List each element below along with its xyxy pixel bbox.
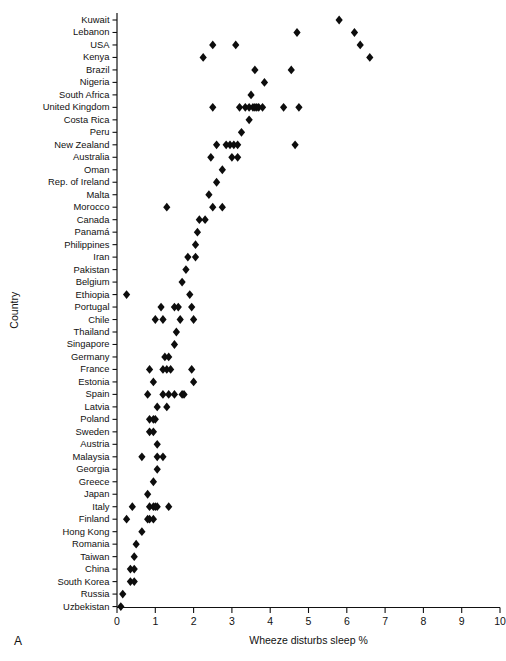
category-label-kenya: Kenya xyxy=(83,51,110,62)
data-point xyxy=(366,53,373,62)
data-point xyxy=(123,290,130,299)
data-point xyxy=(182,265,189,274)
category-label-japan: Japan xyxy=(84,488,110,499)
data-point xyxy=(246,115,253,124)
data-point xyxy=(190,315,197,324)
category-label-spain: Spain xyxy=(86,388,110,399)
x-axis-tick-label: 8 xyxy=(420,615,426,627)
panel-letter: A xyxy=(14,634,22,648)
category-label-portugal: Portugal xyxy=(75,301,110,312)
data-point xyxy=(213,140,220,149)
category-label-australia: Australia xyxy=(73,151,110,162)
category-label-romania: Romania xyxy=(72,538,110,549)
x-axis-tick-label: 4 xyxy=(267,615,273,627)
scatter-plot: KuwaitLebanonUSAKenyaBrazilNigeriaSouth … xyxy=(0,0,506,661)
data-point xyxy=(144,490,151,499)
x-axis-tick-label: 0 xyxy=(114,615,120,627)
data-point xyxy=(179,278,186,287)
category-label-thailand: Thailand xyxy=(74,326,110,337)
data-point xyxy=(190,378,197,387)
x-axis-tick-label: 2 xyxy=(191,615,197,627)
data-point xyxy=(163,203,170,212)
data-point xyxy=(138,527,145,536)
data-point xyxy=(150,378,157,387)
data-point xyxy=(159,315,166,324)
x-axis-tick-label: 1 xyxy=(152,615,158,627)
category-label-malta: Malta xyxy=(87,189,111,200)
category-label-peru: Peru xyxy=(90,126,110,137)
data-point xyxy=(219,165,226,174)
data-point xyxy=(188,365,195,374)
category-label-philippines: Philippines xyxy=(64,239,110,250)
category-label-russia: Russia xyxy=(81,588,110,599)
data-point xyxy=(131,577,138,586)
data-point xyxy=(288,66,295,75)
category-label-kuwait: Kuwait xyxy=(81,14,110,25)
category-label-italy: Italy xyxy=(92,501,110,512)
data-point xyxy=(205,190,212,199)
data-point xyxy=(232,41,239,50)
category-label-new-zealand: New Zealand xyxy=(54,139,109,150)
category-label-oman: Oman xyxy=(84,164,110,175)
data-point xyxy=(146,365,153,374)
category-label-poland: Poland xyxy=(80,413,109,424)
category-label-belgium: Belgium xyxy=(76,276,110,287)
data-point xyxy=(133,540,140,549)
data-point xyxy=(167,365,174,374)
x-axis-tick-label: 6 xyxy=(344,615,350,627)
x-axis-tick-label: 10 xyxy=(494,615,506,627)
category-label-greece: Greece xyxy=(79,476,110,487)
category-label-canada: Canada xyxy=(77,214,111,225)
x-axis-tick-label: 3 xyxy=(229,615,235,627)
data-point xyxy=(138,452,145,461)
data-point xyxy=(295,103,302,112)
data-point xyxy=(159,452,166,461)
data-point xyxy=(150,515,157,524)
category-label-germany: Germany xyxy=(71,351,110,362)
data-point xyxy=(261,78,268,87)
data-point xyxy=(171,390,178,399)
category-label-panam-: Panamá xyxy=(75,226,111,237)
data-point xyxy=(129,502,136,511)
data-point xyxy=(336,16,343,25)
data-point xyxy=(200,53,207,62)
category-label-rep-of-ireland: Rep. of Ireland xyxy=(48,176,110,187)
data-point xyxy=(209,203,216,212)
data-point xyxy=(150,477,157,486)
data-point xyxy=(291,140,298,149)
data-point xyxy=(213,178,220,187)
data-point xyxy=(131,552,138,561)
figure-panel-a: KuwaitLebanonUSAKenyaBrazilNigeriaSouth … xyxy=(0,0,506,661)
data-point xyxy=(259,103,266,112)
data-point xyxy=(188,303,195,312)
data-point xyxy=(201,215,208,224)
data-point xyxy=(123,515,130,524)
data-point xyxy=(150,427,157,436)
category-label-hong-kong: Hong Kong xyxy=(63,526,110,537)
data-point xyxy=(157,303,164,312)
category-label-malaysia: Malaysia xyxy=(73,451,111,462)
data-point xyxy=(247,90,254,99)
data-point xyxy=(165,502,172,511)
data-point xyxy=(117,602,124,611)
data-point xyxy=(163,402,170,411)
category-label-finland: Finland xyxy=(79,513,110,524)
data-point xyxy=(175,303,182,312)
y-axis-title: Country xyxy=(8,291,20,329)
data-point xyxy=(154,440,161,449)
data-point xyxy=(131,565,138,574)
data-point xyxy=(351,28,358,37)
category-label-usa: USA xyxy=(90,39,110,50)
category-label-france: France xyxy=(80,363,109,374)
category-label-austria: Austria xyxy=(80,438,110,449)
data-point xyxy=(234,153,241,162)
category-label-iran: Iran xyxy=(93,251,109,262)
data-point xyxy=(293,28,300,37)
data-point xyxy=(209,103,216,112)
data-point xyxy=(152,315,159,324)
data-point xyxy=(184,253,191,262)
category-label-costa-rica: Costa Rica xyxy=(64,114,111,125)
category-label-singapore: Singapore xyxy=(67,338,110,349)
data-point xyxy=(154,402,161,411)
category-label-morocco: Morocco xyxy=(74,201,110,212)
